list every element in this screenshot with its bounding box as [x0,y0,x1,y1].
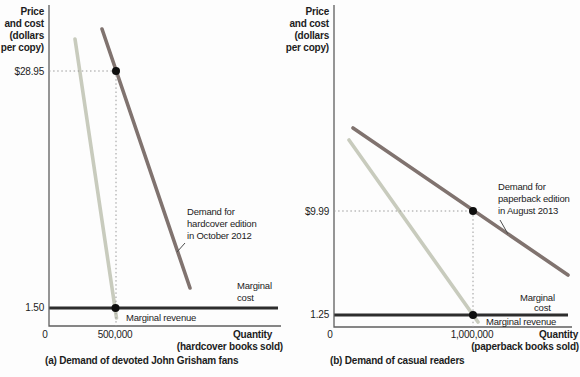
mr-label-b: Marginal revenue [486,316,556,327]
y-axis-title-a-line1: Price [21,6,45,17]
axes-a [49,5,281,326]
y-axis-title-a-line2: and cost [4,18,44,29]
x-axis-title-a-line1: Quantity [233,329,273,340]
origin-label-b: 0 [327,329,333,340]
mr-label-a: Marginal revenue [126,312,196,323]
marginal-revenue-line-a [75,39,117,318]
x-axis-title-b-line2: (paperback books sold) [471,341,579,352]
demand-label-a-line3: in October 2012 [187,230,252,241]
panel-a: Price and cost (dollars per copy) $28.95… [1,5,283,366]
mc-label-a-line1: Marginal [237,280,272,291]
demand-point-b [469,207,477,215]
x-axis-title-b-line1: Quantity [539,329,579,340]
origin-label-a: 0 [42,329,48,340]
y-axis-title-a-line3: (dollars [9,30,44,41]
demand-label-b-line2: paperback edition [498,193,570,204]
mc-label-a-line2: cost [237,292,254,303]
price-tick-a: $28.95 [15,66,45,77]
demand-label-a-line1: Demand for [187,206,235,217]
demand-label-a-line2: hardcover edition [187,218,256,229]
demand-label-pointer-a [177,243,185,252]
book-demand-figure: Price and cost (dollars per copy) $28.95… [0,0,580,377]
caption-b: (b) Demand of casual readers [330,355,465,366]
mc-label-b-line2: cost [534,302,551,313]
quantity-tick-a: 500,000 [98,329,133,340]
quantity-tick-b: 1,000,000 [451,329,494,340]
axes-b [334,5,572,327]
demand-label-b-line1: Demand for [498,181,546,192]
mr-mc-point-b [469,311,477,319]
mc-tick-b: 1.25 [310,309,329,320]
y-axis-title-a-line4: per copy) [1,42,44,53]
x-axis-title-a-line2: (hardcover books sold) [177,341,283,352]
y-axis-title-b-line2: and cost [289,18,329,29]
mc-tick-a: 1.50 [25,302,44,313]
demand-point-a [112,67,120,75]
demand-label-b-line3: in August 2013 [498,205,558,216]
caption-a: (a) Demand of devoted John Grisham fans [45,355,239,366]
y-axis-title-b-line4: per copy) [286,42,329,53]
price-tick-b: $9.99 [305,206,330,217]
y-axis-title-b-line3: (dollars [294,30,329,41]
y-axis-title-b-line1: Price [306,6,330,17]
mr-mc-point-a [112,304,120,312]
panel-b: Price and cost (dollars per copy) $9.99 … [286,5,579,366]
